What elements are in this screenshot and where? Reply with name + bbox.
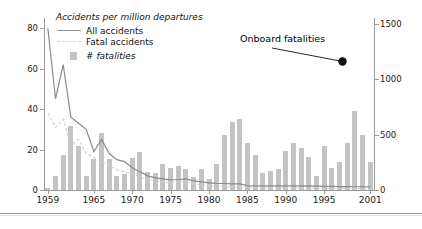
chart-figure: 020406080 050010001500 19591965197019751… bbox=[0, 0, 422, 229]
solid-line-icon bbox=[56, 30, 82, 31]
legend-label-fatalities: # fatalities bbox=[86, 51, 135, 61]
x-tick-label: 1980 bbox=[198, 196, 221, 205]
footer-divider bbox=[0, 213, 422, 214]
x-tick-mark bbox=[48, 190, 49, 194]
x-tick-mark bbox=[286, 190, 287, 194]
left-tick-label: 80 bbox=[27, 24, 38, 33]
right-axis bbox=[374, 18, 375, 190]
left-tick-label: 0 bbox=[33, 186, 38, 195]
right-tick-mark bbox=[375, 135, 379, 136]
legend-item-fatal-accidents: Fatal accidents bbox=[56, 36, 203, 47]
right-tick-label: 1500 bbox=[380, 19, 402, 28]
x-tick-label: 2001 bbox=[359, 196, 382, 205]
x-tick-mark bbox=[132, 190, 133, 194]
fatal-accidents-line bbox=[48, 113, 370, 189]
footer-divider-shadow bbox=[0, 215, 422, 216]
bar-swatch-icon bbox=[56, 52, 82, 60]
right-tick-mark bbox=[375, 190, 379, 191]
legend-item-fatalities: # fatalities bbox=[56, 50, 203, 61]
annotation-label: Onboard fatalities bbox=[240, 33, 325, 44]
left-tick-mark bbox=[40, 150, 44, 151]
x-tick-label: 1965 bbox=[82, 196, 105, 205]
right-tick-label: 0 bbox=[380, 186, 385, 195]
left-tick-label: 20 bbox=[27, 145, 38, 154]
left-tick-label: 40 bbox=[27, 105, 38, 114]
x-tick-label: 1990 bbox=[274, 196, 297, 205]
legend-title: Accidents per million departures bbox=[56, 12, 203, 22]
x-tick-mark bbox=[171, 190, 172, 194]
right-tick-mark bbox=[375, 79, 379, 80]
x-tick-mark bbox=[324, 190, 325, 194]
x-tick-label: 1975 bbox=[159, 196, 182, 205]
x-tick-mark bbox=[209, 190, 210, 194]
legend-label-fatal-accidents: Fatal accidents bbox=[86, 37, 153, 47]
left-tick-mark bbox=[40, 28, 44, 29]
legend-item-all-accidents: All accidents bbox=[56, 25, 203, 36]
x-tick-label: 1985 bbox=[236, 196, 259, 205]
right-tick-label: 1000 bbox=[380, 75, 402, 84]
right-tick-mark bbox=[375, 24, 379, 25]
left-tick-mark bbox=[40, 190, 44, 191]
left-tick-mark bbox=[40, 69, 44, 70]
x-tick-label: 1970 bbox=[121, 196, 144, 205]
dashed-line-icon bbox=[56, 41, 82, 42]
x-tick-mark bbox=[370, 190, 371, 194]
right-tick-label: 500 bbox=[380, 130, 396, 139]
x-tick-label: 1959 bbox=[36, 196, 59, 205]
x-tick-mark bbox=[94, 190, 95, 194]
legend-label-all-accidents: All accidents bbox=[86, 26, 143, 36]
legend: Accidents per million departures All acc… bbox=[56, 12, 203, 61]
left-tick-mark bbox=[40, 109, 44, 110]
x-tick-label: 1995 bbox=[313, 196, 336, 205]
left-tick-label: 60 bbox=[27, 64, 38, 73]
x-tick-mark bbox=[247, 190, 248, 194]
